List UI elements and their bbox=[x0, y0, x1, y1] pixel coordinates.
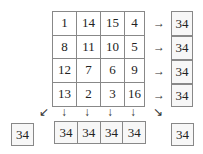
cell-r2c1: 8 bbox=[53, 36, 77, 60]
cell-r3c2: 7 bbox=[77, 59, 101, 83]
cell-r4c2: 2 bbox=[77, 83, 101, 107]
cell-r3c3: 6 bbox=[101, 59, 125, 83]
magic-square-grid: 1 14 15 4 8 11 10 5 12 7 6 9 13 2 3 16 bbox=[52, 11, 145, 107]
cell-r4c1: 13 bbox=[53, 83, 77, 107]
main-diagonal-sum: 34 bbox=[171, 123, 194, 146]
cell-r1c4: 4 bbox=[125, 12, 144, 36]
right-arrow-icon: → bbox=[153, 17, 165, 29]
cell-r1c3: 15 bbox=[101, 12, 125, 36]
col-sum-3: 34 bbox=[101, 122, 124, 143]
right-arrow-icon: → bbox=[153, 89, 165, 101]
cell-r2c2: 11 bbox=[77, 36, 101, 60]
down-arrow-icon: ↓ bbox=[130, 106, 136, 118]
row-sum-2: 34 bbox=[171, 36, 193, 60]
row-sum-3: 34 bbox=[171, 60, 193, 84]
cell-r2c4: 5 bbox=[125, 36, 144, 60]
cell-r3c1: 12 bbox=[53, 59, 77, 83]
cell-r2c3: 10 bbox=[101, 36, 125, 60]
down-arrow-icon: ↓ bbox=[107, 106, 113, 118]
row-sum-4: 34 bbox=[171, 84, 193, 107]
col-sum-4: 34 bbox=[123, 122, 145, 143]
down-right-arrow-icon: ↘ bbox=[153, 106, 163, 118]
down-left-arrow-icon: ↙ bbox=[39, 106, 49, 118]
cell-r1c1: 1 bbox=[53, 12, 77, 36]
cell-r1c2: 14 bbox=[77, 12, 101, 36]
cell-r4c4: 16 bbox=[125, 83, 144, 107]
col-sum-1: 34 bbox=[55, 122, 78, 143]
right-arrow-icon: → bbox=[153, 41, 165, 53]
right-arrow-icon: → bbox=[153, 65, 165, 77]
col-sum-2: 34 bbox=[78, 122, 101, 143]
column-sums: 34 34 34 34 bbox=[54, 121, 146, 144]
down-arrow-icon: ↓ bbox=[84, 106, 90, 118]
cell-r4c3: 3 bbox=[101, 83, 125, 107]
anti-diagonal-sum: 34 bbox=[11, 123, 34, 146]
row-sum-1: 34 bbox=[171, 11, 193, 36]
cell-r3c4: 9 bbox=[125, 59, 144, 83]
down-arrow-icon: ↓ bbox=[61, 106, 67, 118]
